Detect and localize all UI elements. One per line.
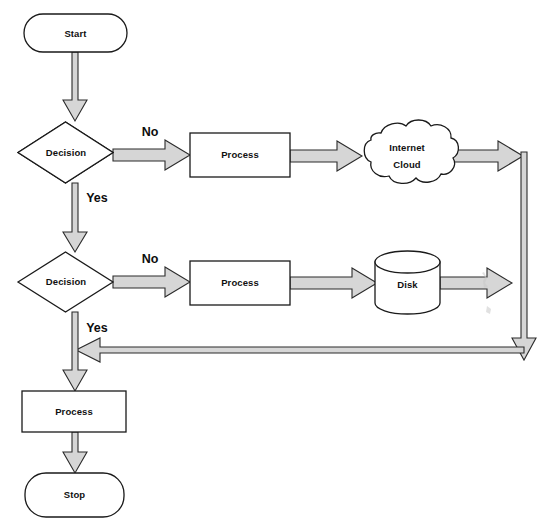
arrow-decision1-to-decision2: [63, 183, 87, 252]
edge-label-decision1-no: No: [142, 125, 159, 139]
edge-label-decision2-yes: Yes: [86, 321, 108, 335]
arrow-disk-to-right-rail: [440, 268, 512, 298]
edge-label-decision1-yes: Yes: [86, 191, 108, 205]
scan-smudge: [486, 306, 491, 314]
arrow-return-to-yes-branch: [76, 338, 524, 362]
arrow-process1-to-cloud: [290, 141, 362, 171]
node-start-label: Start: [64, 28, 87, 39]
node-decision-2[interactable]: Decision: [18, 252, 113, 312]
node-process-2-label: Process: [221, 277, 259, 288]
node-decision-1-label: Decision: [46, 147, 86, 158]
arrow-right-rail-down: [512, 152, 536, 360]
node-process-1-label: Process: [221, 149, 259, 160]
arrow-process2-to-disk: [290, 268, 377, 298]
node-decision-1[interactable]: Decision: [18, 122, 113, 183]
node-internet-cloud-label-line-1: Internet: [389, 142, 425, 153]
flowchart-canvas: Start Decision Process Internet Cloud De…: [0, 0, 547, 531]
node-stop[interactable]: Stop: [25, 473, 124, 517]
node-internet-cloud[interactable]: Internet Cloud: [364, 120, 458, 183]
node-start[interactable]: Start: [24, 14, 127, 52]
node-process-3[interactable]: Process: [22, 391, 126, 432]
node-internet-cloud-label-line-2: Cloud: [393, 159, 421, 170]
node-process-2[interactable]: Process: [190, 261, 290, 305]
node-process-1[interactable]: Process: [190, 133, 290, 177]
node-disk[interactable]: Disk: [375, 251, 440, 314]
edge-label-decision2-no: No: [142, 252, 159, 266]
arrow-cloud-to-right-rail: [450, 141, 523, 171]
arrow-start-to-decision1: [63, 52, 87, 121]
arrow-decision1-to-process1: [113, 140, 190, 170]
node-process-3-label: Process: [55, 406, 93, 417]
node-stop-label: Stop: [64, 489, 86, 500]
arrow-process3-to-stop: [63, 432, 87, 473]
flowchart-svg: Start Decision Process Internet Cloud De…: [0, 0, 547, 531]
node-disk-label: Disk: [397, 279, 418, 290]
arrow-decision2-to-process2: [113, 267, 190, 297]
node-decision-2-label: Decision: [46, 276, 86, 287]
